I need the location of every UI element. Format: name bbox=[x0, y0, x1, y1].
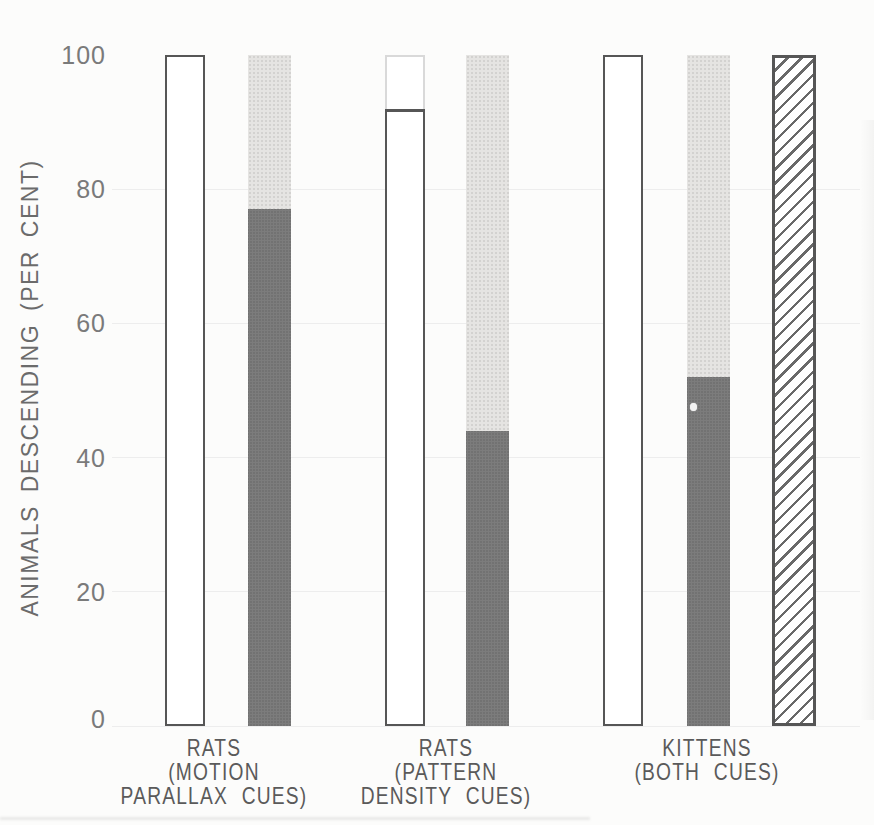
category-label-line: (MOTION bbox=[121, 760, 308, 784]
figure-canvas: ANIMALS DESCENDING (PER CENT) 0204060801… bbox=[0, 0, 874, 825]
bar-dark-segment bbox=[248, 209, 291, 726]
y-tick-label: 0 bbox=[36, 704, 106, 734]
bar-open-faint-extension bbox=[385, 55, 425, 109]
y-tick-label: 20 bbox=[36, 577, 106, 607]
scan-speck bbox=[690, 403, 697, 411]
category-label: RATS(PATTERNDENSITY CUES) bbox=[361, 736, 532, 808]
y-tick-label: 100 bbox=[36, 40, 106, 70]
category-label-line: PARALLAX CUES) bbox=[121, 784, 308, 808]
y-tick-label: 60 bbox=[36, 308, 106, 338]
bar-open bbox=[385, 109, 425, 726]
category-label-line: RATS bbox=[361, 736, 532, 760]
bar-open bbox=[603, 55, 643, 726]
bar-hatched bbox=[772, 55, 816, 726]
chart-area: 020406080100RATS(MOTIONPARALLAX CUES)RAT… bbox=[0, 0, 874, 825]
bar-dark-segment bbox=[466, 431, 509, 726]
bar-light-segment bbox=[248, 55, 291, 209]
category-label: KITTENS(BOTH CUES) bbox=[634, 736, 779, 784]
y-tick-label: 40 bbox=[36, 443, 106, 473]
scan-artifact-streak bbox=[0, 817, 590, 820]
scan-artifact-edge bbox=[860, 120, 874, 720]
bar-open bbox=[165, 55, 205, 726]
category-label: RATS(MOTIONPARALLAX CUES) bbox=[121, 736, 308, 808]
bar-light-segment bbox=[687, 55, 730, 377]
bar-light-segment bbox=[466, 55, 509, 431]
bar-dark-segment bbox=[687, 377, 730, 726]
category-label-line: (PATTERN bbox=[361, 760, 532, 784]
y-tick-label: 80 bbox=[36, 174, 106, 204]
category-label-line: DENSITY CUES) bbox=[361, 784, 532, 808]
category-label-line: KITTENS bbox=[634, 736, 779, 760]
category-label-line: (BOTH CUES) bbox=[634, 760, 779, 784]
category-label-line: RATS bbox=[121, 736, 308, 760]
